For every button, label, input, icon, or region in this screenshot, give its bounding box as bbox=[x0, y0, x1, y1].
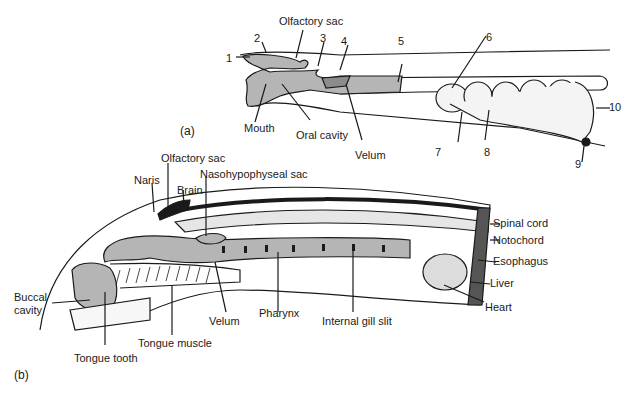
label-a-6: 6 bbox=[486, 31, 492, 43]
label-b-brain: Brain bbox=[177, 184, 203, 196]
pharynx bbox=[104, 236, 410, 263]
label-a-10: 10 bbox=[609, 101, 621, 113]
label-b-naris: Naris bbox=[134, 174, 160, 186]
lamprey-anatomy-drawing bbox=[0, 0, 632, 394]
label-b-notochord: Notochord bbox=[493, 234, 544, 246]
label-b-liver: Liver bbox=[490, 277, 514, 289]
label-a-7: 7 bbox=[435, 146, 441, 158]
label-b-tongue-tooth: Tongue tooth bbox=[74, 352, 138, 364]
label-a-olfactory-sac: Olfactory sac bbox=[279, 15, 343, 27]
label-b-esophagus: Esophagus bbox=[493, 255, 548, 267]
label-b-internal-gill-slit: Internal gill slit bbox=[322, 315, 392, 327]
panel-a-drawing bbox=[236, 30, 610, 162]
label-a-velum: Velum bbox=[355, 149, 386, 161]
label-a-2: 2 bbox=[254, 32, 260, 44]
label-b-velum: Velum bbox=[209, 315, 240, 327]
label-a-oral-cavity: Oral cavity bbox=[296, 129, 348, 141]
label-a-9: 9 bbox=[575, 158, 581, 170]
label-b-pharynx: Pharynx bbox=[259, 307, 299, 319]
label-a-8: 8 bbox=[484, 146, 490, 158]
liver bbox=[423, 254, 467, 290]
label-b-heart: Heart bbox=[485, 301, 512, 313]
label-a-5: 5 bbox=[398, 35, 404, 47]
label-b-nasohypophyseal-sac: Nasohypophyseal sac bbox=[200, 168, 308, 180]
label-a-3: 3 bbox=[320, 32, 326, 44]
label-a-4: 4 bbox=[341, 35, 347, 47]
panel-b-tag: (b) bbox=[14, 369, 29, 381]
label-b-buccal-line1: Buccal bbox=[14, 291, 47, 303]
label-b-spinal-cord: Spinal cord bbox=[493, 217, 548, 229]
notochord bbox=[175, 210, 488, 232]
label-a-1: 1 bbox=[226, 52, 232, 64]
panel-a-tag: (a) bbox=[180, 125, 195, 137]
label-a-mouth: Mouth bbox=[244, 122, 275, 134]
label-b-buccal-line2: cavity bbox=[14, 304, 42, 316]
label-b-olfactory-sac: Olfactory sac bbox=[161, 152, 225, 164]
label-b-tongue-muscle: Tongue muscle bbox=[138, 337, 212, 349]
